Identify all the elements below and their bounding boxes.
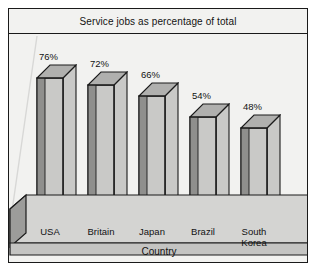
page-title: Service jobs as percentage of total xyxy=(80,16,237,27)
bar-value-label-4: 48% xyxy=(243,101,262,112)
x-tick-label-2: Japan xyxy=(125,226,179,237)
bar-value-label-1: 72% xyxy=(90,58,109,69)
x-tick-label-0: USA xyxy=(23,226,77,237)
plot-area: 76%72%66%54%48% USABritainJapanBrazilSou… xyxy=(9,34,307,262)
bar-value-label-2: 66% xyxy=(141,69,160,80)
bar-value-label-0: 76% xyxy=(39,51,58,62)
x-axis-title: Country xyxy=(9,246,308,257)
bar-value-label-3: 54% xyxy=(192,90,211,101)
x-tick-label-1: Britain xyxy=(74,226,128,237)
x-tick-label-3: Brazil xyxy=(176,226,230,237)
x-tick-label-4: South Korea xyxy=(227,226,281,248)
chart-frame: Service jobs as percentage of total 76%7… xyxy=(8,8,308,263)
chart-title-band: Service jobs as percentage of total xyxy=(9,9,307,34)
